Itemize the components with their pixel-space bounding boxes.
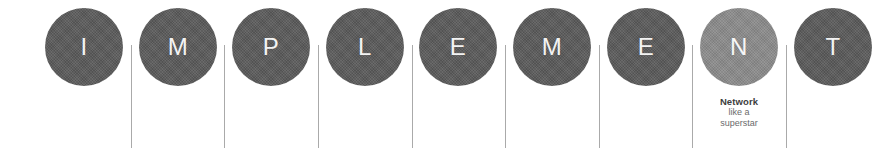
caption-title: Network	[684, 96, 794, 107]
circle-letter: N	[730, 35, 748, 59]
node-divider	[505, 45, 506, 148]
letter-circle: P	[232, 8, 310, 86]
circle-letter: P	[263, 35, 280, 59]
circle-letter: L	[358, 35, 372, 59]
letter-circle: E	[419, 8, 497, 86]
caption-line-2: superstar	[684, 118, 794, 129]
letter-circle: I	[45, 8, 123, 86]
letter-circle: M	[513, 8, 591, 86]
letter-circle: E	[607, 8, 685, 86]
node-divider	[224, 45, 225, 148]
circle-letter: M	[168, 35, 189, 59]
letter-circle: T	[794, 8, 872, 86]
circle-letter: E	[450, 35, 467, 59]
implement-infographic: IMPLEMENNetworklike asuperstarT	[0, 0, 877, 160]
node-divider	[131, 45, 132, 148]
node-divider	[599, 45, 600, 148]
circle-letter: E	[638, 35, 655, 59]
node-divider	[412, 45, 413, 148]
node-caption: Networklike asuperstar	[684, 96, 794, 129]
circle-letter: T	[825, 35, 840, 59]
letter-circle: M	[139, 8, 217, 86]
node-divider	[318, 45, 319, 148]
circle-letter: M	[542, 35, 563, 59]
circle-letter: I	[80, 35, 87, 59]
caption-line-1: like a	[684, 107, 794, 118]
letter-circle-highlighted: N	[700, 8, 778, 86]
letter-circle: L	[326, 8, 404, 86]
